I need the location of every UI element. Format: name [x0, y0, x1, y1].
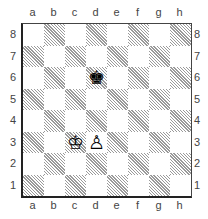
chess-board: ♚♔♙: [21, 23, 192, 198]
square-a5: [23, 89, 44, 111]
square-a2: [23, 153, 44, 175]
square-h1: [170, 175, 191, 197]
square-h5: [170, 89, 191, 111]
square-b4: [44, 110, 65, 132]
black-king-icon: ♚: [88, 68, 105, 87]
square-b2: [44, 153, 65, 175]
file-label-f: f: [127, 6, 148, 18]
square-h6: [170, 67, 191, 89]
rank-label-6: 6: [191, 67, 203, 89]
square-c8: [65, 24, 86, 46]
square-f6: [128, 67, 149, 89]
file-label-e: e: [106, 6, 127, 18]
file-label-c: c: [64, 6, 85, 18]
rank-label-3: 3: [7, 132, 19, 154]
square-g2: [149, 153, 170, 175]
rank-label-7: 7: [191, 46, 203, 68]
rank-label-4: 4: [191, 110, 203, 132]
file-label-h: h: [169, 199, 190, 211]
chess-diagram: abcdefgh abcdefgh 87654321 87654321 ♚♔♙: [0, 0, 208, 219]
rank-label-4: 4: [7, 110, 19, 132]
square-h7: [170, 46, 191, 68]
square-a7: [23, 46, 44, 68]
rank-label-1: 1: [7, 175, 19, 197]
square-a1: [23, 175, 44, 197]
square-f8: [128, 24, 149, 46]
square-d5: [86, 89, 107, 111]
square-f3: [128, 132, 149, 154]
file-label-a: a: [22, 199, 43, 211]
square-b1: [44, 175, 65, 197]
file-label-f: f: [127, 199, 148, 211]
square-b6: [44, 67, 65, 89]
file-label-d: d: [85, 199, 106, 211]
square-a6: [23, 67, 44, 89]
white-king-icon: ♔: [67, 133, 84, 152]
square-d2: [86, 153, 107, 175]
square-c2: [65, 153, 86, 175]
white-pawn-icon: ♙: [88, 133, 105, 152]
file-label-c: c: [64, 199, 85, 211]
square-a8: [23, 24, 44, 46]
square-f1: [128, 175, 149, 197]
file-label-b: b: [43, 199, 64, 211]
square-g4: [149, 110, 170, 132]
square-h3: [170, 132, 191, 154]
rank-label-6: 6: [7, 67, 19, 89]
rank-label-1: 1: [191, 175, 203, 197]
rank-label-8: 8: [191, 24, 203, 46]
square-b3: [44, 132, 65, 154]
square-e1: [107, 175, 128, 197]
file-label-h: h: [169, 6, 190, 18]
square-e2: [107, 153, 128, 175]
file-label-a: a: [22, 6, 43, 18]
square-d3: ♙: [86, 132, 107, 154]
square-b7: [44, 46, 65, 68]
square-c6: [65, 67, 86, 89]
rank-label-5: 5: [7, 89, 19, 111]
square-c4: [65, 110, 86, 132]
square-f2: [128, 153, 149, 175]
square-d4: [86, 110, 107, 132]
square-d6: ♚: [86, 67, 107, 89]
square-f7: [128, 46, 149, 68]
rank-label-3: 3: [191, 132, 203, 154]
square-h2: [170, 153, 191, 175]
square-f5: [128, 89, 149, 111]
square-c3: ♔: [65, 132, 86, 154]
square-e5: [107, 89, 128, 111]
square-f4: [128, 110, 149, 132]
square-a4: [23, 110, 44, 132]
rank-label-2: 2: [7, 153, 19, 175]
rank-label-2: 2: [191, 153, 203, 175]
square-g1: [149, 175, 170, 197]
square-c1: [65, 175, 86, 197]
square-d8: [86, 24, 107, 46]
rank-label-5: 5: [191, 89, 203, 111]
rank-label-8: 8: [7, 24, 19, 46]
square-a3: [23, 132, 44, 154]
file-label-g: g: [148, 199, 169, 211]
square-d1: [86, 175, 107, 197]
square-b5: [44, 89, 65, 111]
rank-label-7: 7: [7, 46, 19, 68]
square-e3: [107, 132, 128, 154]
square-c5: [65, 89, 86, 111]
square-b8: [44, 24, 65, 46]
file-label-e: e: [106, 199, 127, 211]
file-label-d: d: [85, 6, 106, 18]
square-c7: [65, 46, 86, 68]
square-e4: [107, 110, 128, 132]
square-e8: [107, 24, 128, 46]
square-h4: [170, 110, 191, 132]
square-g7: [149, 46, 170, 68]
square-h8: [170, 24, 191, 46]
square-e7: [107, 46, 128, 68]
square-d7: [86, 46, 107, 68]
file-label-b: b: [43, 6, 64, 18]
square-e6: [107, 67, 128, 89]
square-g5: [149, 89, 170, 111]
square-g3: [149, 132, 170, 154]
file-label-g: g: [148, 6, 169, 18]
square-g6: [149, 67, 170, 89]
